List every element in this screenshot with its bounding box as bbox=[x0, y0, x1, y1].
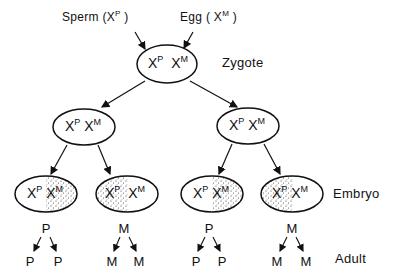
lineage-arrow bbox=[34, 237, 41, 251]
embryo-stage-label: Embryo bbox=[333, 186, 380, 201]
lineage-arrow bbox=[129, 237, 136, 251]
arrow-to-embryo-3 bbox=[219, 144, 232, 174]
zygote-stage-label: Zygote bbox=[222, 55, 264, 70]
gen2-left-genotype: XP XM bbox=[65, 118, 101, 134]
lineage-arrow bbox=[296, 237, 303, 251]
embryo-1-active-lineage: P bbox=[42, 221, 51, 236]
sperm-label: Sperm (XP ) bbox=[62, 10, 129, 24]
embryo-3-active-lineage: P bbox=[205, 221, 214, 236]
zygote-genotype: XP XM bbox=[148, 55, 188, 71]
adult-cell: M bbox=[134, 254, 145, 269]
adult-cell: P bbox=[192, 254, 201, 269]
egg-label: Egg ( XM ) bbox=[180, 10, 237, 24]
lineage-arrow bbox=[50, 237, 56, 251]
zygote-left-arrow bbox=[102, 81, 145, 107]
arrow-to-embryo-4 bbox=[264, 144, 280, 174]
adult-cell: M bbox=[301, 254, 312, 269]
embryo-4-active-lineage: M bbox=[287, 221, 298, 236]
arrow-to-embryo-2 bbox=[98, 145, 110, 174]
x-inactivation-diagram bbox=[0, 0, 397, 279]
lineage-arrow bbox=[198, 237, 205, 251]
zygote-right-arrow bbox=[190, 81, 237, 107]
egg-arrow bbox=[184, 32, 193, 48]
adult-cell: M bbox=[272, 254, 283, 269]
arrow-to-embryo-1 bbox=[51, 145, 67, 174]
lineage-arrow bbox=[213, 237, 220, 251]
adult-cell: M bbox=[107, 254, 118, 269]
adult-cell: P bbox=[26, 254, 35, 269]
embryo-3-genotype: XP XM bbox=[193, 185, 229, 201]
adult-cell: P bbox=[54, 254, 63, 269]
embryo-2-genotype: XP XM bbox=[105, 185, 145, 201]
lineage-arrow bbox=[280, 237, 287, 251]
sperm-arrow bbox=[135, 32, 145, 49]
adult-cell: P bbox=[218, 254, 227, 269]
gen2-right-genotype: XP XM bbox=[229, 117, 265, 133]
embryo-2-active-lineage: M bbox=[119, 221, 130, 236]
lineage-arrow bbox=[114, 237, 120, 251]
embryo-1-genotype: XP XM bbox=[27, 185, 63, 201]
adult-stage-label: Adult bbox=[335, 251, 366, 266]
embryo-4-genotype: XP XM bbox=[272, 185, 308, 201]
